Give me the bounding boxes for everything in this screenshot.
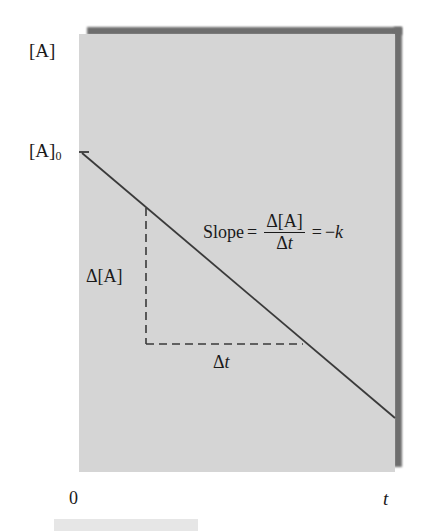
slope-denominator-var: t: [288, 233, 293, 253]
slope-equals: =: [247, 222, 257, 243]
concentration-line: [82, 153, 395, 418]
slope-equals-2: =: [312, 222, 322, 243]
caption-bar: [54, 519, 198, 531]
delta-t-label: Δt: [213, 353, 230, 371]
y-intercept-label-base: [A]: [29, 140, 55, 161]
plot-lines: [0, 0, 423, 531]
slope-denominator-delta: Δ: [276, 233, 288, 253]
slope-fraction: Δ[A] Δt: [264, 212, 305, 254]
rate-law-figure: [A] [A]0 Δ[A] Δt Slope = Δ[A] Δt = −k 0 …: [0, 0, 423, 531]
y-intercept-label-sub: 0: [55, 149, 61, 163]
delta-t-delta: Δ: [213, 352, 225, 372]
y-axis-label: [A]: [29, 41, 55, 60]
slope-rhs-sign: −: [325, 222, 335, 242]
slope-rhs: −k: [325, 222, 343, 243]
x-axis-label: t: [383, 489, 388, 508]
delta-a-label: Δ[A]: [86, 267, 123, 285]
slope-numerator: Δ[A]: [264, 212, 305, 233]
slope-equation: Slope = Δ[A] Δt = −k: [203, 212, 343, 254]
delta-t-var: t: [225, 352, 230, 372]
x-origin-label: 0: [69, 489, 78, 507]
y-intercept-label: [A]0: [29, 141, 61, 162]
slope-denominator: Δt: [276, 233, 293, 254]
slope-lhs: Slope: [203, 222, 244, 243]
slope-rhs-var: k: [335, 222, 343, 242]
